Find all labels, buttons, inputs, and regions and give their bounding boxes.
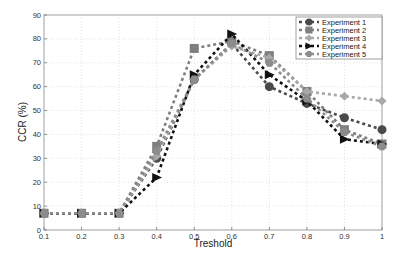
y-tick-label: 80 <box>33 34 41 43</box>
y-axis-label: CCR (%) <box>17 102 28 142</box>
x-tick-label: 0.1 <box>39 232 49 241</box>
x-tick-label: 0.8 <box>302 232 312 241</box>
x-tick-label: 0.2 <box>76 232 86 241</box>
x-tick-label: 0.7 <box>264 232 274 241</box>
legend: Experiment 1Experiment 2Experiment 3Expe… <box>296 17 382 59</box>
y-tick-label: 90 <box>33 11 41 20</box>
line-chart: 0102030405060708090 0.10.20.30.40.50.60.… <box>0 0 406 256</box>
y-tick-label: 20 <box>33 178 41 187</box>
x-tick-label: 0.3 <box>114 232 124 241</box>
x-tick-label: 0.4 <box>151 232 161 241</box>
x-tick-label: 0.9 <box>339 232 349 241</box>
y-tick-label: 30 <box>33 154 41 163</box>
x-tick-label: 1 <box>380 232 384 241</box>
y-tick-label: 60 <box>33 82 41 91</box>
y-tick-label: 70 <box>33 58 41 67</box>
y-tick-label: 40 <box>33 130 41 139</box>
y-tick-label: 50 <box>33 106 41 115</box>
legend-label: Experiment 5 <box>322 50 366 59</box>
x-axis-label: Treshold <box>194 238 233 249</box>
